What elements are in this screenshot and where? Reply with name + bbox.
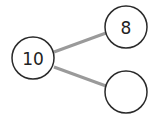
whole-node: 10 bbox=[12, 37, 54, 79]
bottom-part-circle-empty[interactable] bbox=[105, 71, 147, 113]
link-whole-to-top-part bbox=[54, 33, 106, 52]
number-bond-diagram: 10 8 bbox=[0, 0, 156, 121]
link-whole-to-bottom-part bbox=[54, 67, 106, 86]
whole-value: 10 bbox=[22, 49, 44, 69]
top-part-value: 8 bbox=[121, 18, 132, 38]
top-part-node: 8 bbox=[105, 6, 147, 48]
bottom-part-node[interactable] bbox=[105, 71, 147, 113]
